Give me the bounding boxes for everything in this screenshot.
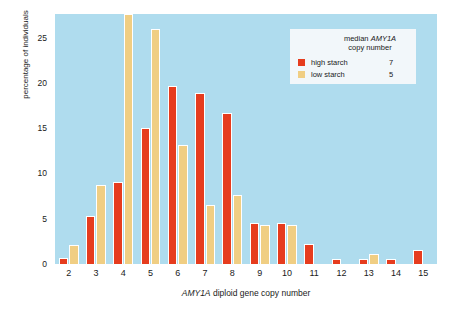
bar-low-starch-7 xyxy=(206,205,215,264)
y-axis-tick: 0 xyxy=(42,260,47,269)
bar-low-starch-13 xyxy=(369,254,378,264)
bar-high-starch-6 xyxy=(168,86,177,264)
bar-high-starch-11 xyxy=(304,244,313,264)
legend-value-low-starch: 5 xyxy=(384,69,398,80)
bar-group xyxy=(246,14,273,264)
bar-high-starch-3 xyxy=(86,216,95,264)
x-axis-tick: 11 xyxy=(310,269,319,278)
bar-high-starch-9 xyxy=(250,223,259,264)
bar-group xyxy=(137,14,164,264)
x-axis-tick: 3 xyxy=(93,269,98,278)
bar-high-starch-5 xyxy=(141,128,150,264)
y-axis-tick: 15 xyxy=(38,124,47,133)
x-axis-tick: 13 xyxy=(364,269,374,278)
legend-value-high-starch: 7 xyxy=(384,57,398,68)
x-axis-tick: 2 xyxy=(66,269,71,278)
legend-item-low-starch: low starch 5 xyxy=(298,69,410,80)
bar-group xyxy=(82,14,109,264)
y-axis-tick: 20 xyxy=(38,79,47,88)
chart-legend: median AMY1A copy number high starch 7 l… xyxy=(290,29,416,84)
bar-group xyxy=(164,14,191,264)
bar-low-starch-3 xyxy=(96,185,105,264)
x-axis-tick: 5 xyxy=(148,269,153,278)
bar-high-starch-8 xyxy=(222,113,231,264)
bar-low-starch-6 xyxy=(178,145,187,264)
bar-group xyxy=(110,14,137,264)
y-axis-tick: 25 xyxy=(38,33,47,42)
x-axis-tick: 9 xyxy=(257,269,262,278)
x-axis-label: AMY1A diploid gene copy number xyxy=(55,288,437,298)
bar-low-starch-10 xyxy=(287,225,296,264)
x-axis-tick: 8 xyxy=(230,269,235,278)
x-axis: 23456789101112131415 xyxy=(55,264,437,304)
bar-group xyxy=(219,14,246,264)
x-axis-tick: 10 xyxy=(282,269,292,278)
y-axis-tick: 10 xyxy=(38,169,47,178)
legend-title: median AMY1A copy number xyxy=(330,34,410,52)
x-axis-label-rest: diploid gene copy number xyxy=(211,288,311,298)
bar-low-starch-4 xyxy=(124,14,133,264)
chart-figure: percentage of individuals 0510152025 234… xyxy=(0,0,457,324)
x-axis-tick: 7 xyxy=(203,269,208,278)
bar-group xyxy=(191,14,218,264)
legend-label-high-starch: high starch xyxy=(311,57,348,68)
y-axis-tick: 5 xyxy=(42,214,47,223)
legend-swatch-high-starch-icon xyxy=(298,59,305,66)
x-axis-tick: 12 xyxy=(336,269,346,278)
bar-low-starch-5 xyxy=(151,29,160,264)
bar-high-starch-10 xyxy=(277,223,286,264)
x-axis-tick: 15 xyxy=(418,269,428,278)
y-axis: percentage of individuals 0510152025 xyxy=(0,0,55,278)
bar-high-starch-4 xyxy=(113,182,122,264)
legend-label-low-starch: low starch xyxy=(311,69,345,80)
bar-group xyxy=(55,14,82,264)
legend-title-line2: copy number xyxy=(348,43,391,52)
x-axis-tick: 6 xyxy=(175,269,180,278)
bar-low-starch-9 xyxy=(260,225,269,264)
x-axis-tick: 14 xyxy=(391,269,401,278)
y-axis-label: percentage of individuals xyxy=(21,0,30,135)
legend-title-gene: AMY1A xyxy=(371,34,396,43)
bar-high-starch-15 xyxy=(413,250,422,264)
bar-high-starch-7 xyxy=(195,93,204,264)
x-axis-tick: 4 xyxy=(121,269,126,278)
legend-item-high-starch: high starch 7 xyxy=(298,57,410,68)
x-axis-label-gene: AMY1A xyxy=(182,288,211,298)
bar-low-starch-2 xyxy=(69,245,78,264)
bar-low-starch-8 xyxy=(233,195,242,264)
legend-title-prefix: median xyxy=(344,34,371,43)
legend-swatch-low-starch-icon xyxy=(298,71,305,78)
